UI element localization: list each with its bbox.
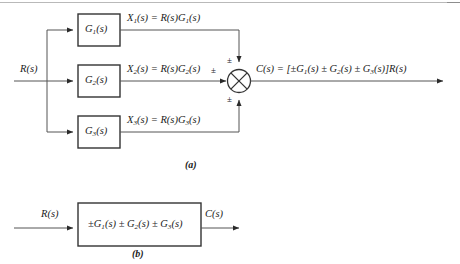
junction-sign-bottom: ± [227, 95, 232, 104]
block-g1-label: G1(s) [85, 24, 107, 36]
junction-sign-left: ± [211, 66, 216, 75]
input-label-b: R(s) [41, 209, 59, 220]
wire-g1-to-junction [120, 30, 239, 62]
figure-caption-b: (b) [132, 249, 144, 259]
block-equivalent-label: ±G1(s) ± G2(s) ± G3(s) [88, 219, 183, 231]
block-g2-label: G2(s) [85, 75, 107, 87]
signal-x3-label: X3(s) = R(s)G3(s) [127, 115, 200, 127]
figure-canvas: R(s) G1(s) G2(s) G3(s) X1(s) = R(s)G1(s)… [0, 0, 460, 264]
signal-x1-label: X1(s) = R(s)G1(s) [127, 13, 200, 25]
output-equation-label: C(s) = [±G1(s) ± G2(s) ± G3(s)]R(s) [256, 64, 407, 76]
output-label-b: C(s) [205, 209, 223, 220]
block-g3-label: G3(s) [85, 126, 107, 138]
signal-x2-label: X2(s) = R(s)G2(s) [127, 64, 200, 76]
junction-sign-top: ± [227, 56, 232, 65]
input-label-a: R(s) [20, 64, 38, 75]
figure-caption-a: (a) [185, 160, 197, 170]
block-diagram-vector [0, 0, 460, 264]
